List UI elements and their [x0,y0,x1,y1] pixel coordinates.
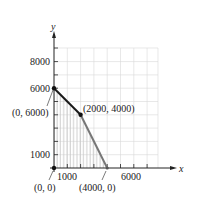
y-tick-6000: 6000 [30,83,50,94]
label-4000-0: (4000, 0) [79,182,116,194]
x-axis-arrow-icon [170,166,177,170]
chart: y x 8000 6000 1000 1000 6000 (0, 6000) (… [0,0,197,208]
y-axis-label: y [50,21,56,32]
vertex-4000-0 [106,166,109,169]
label-0-0: (0, 0) [34,182,56,194]
x-tick-6000: 6000 [121,171,141,182]
y-tick-1000: 1000 [30,149,50,160]
label-2000-4000: (2000, 4000) [83,103,135,115]
label-0-6000: (0, 6000) [12,107,49,119]
y-axis-arrow-icon [52,31,56,38]
y-tick-8000: 8000 [30,56,50,67]
x-tick-1000: 1000 [57,171,77,182]
vertex-0-0 [52,166,56,170]
vertex-0-6000 [52,86,56,90]
x-axis-label: x [178,163,184,174]
